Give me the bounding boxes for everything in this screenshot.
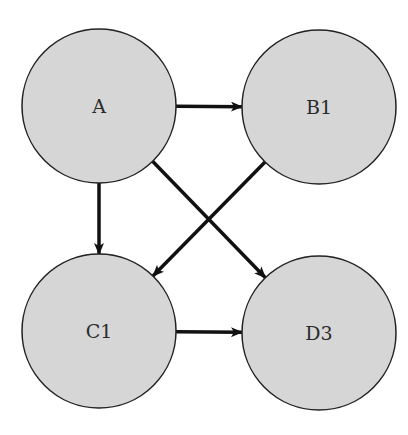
edge-c1-to-d3 [176,332,242,333]
node-d3: D3 [242,256,396,410]
node-label: D3 [305,322,332,344]
node-c1: C1 [22,254,176,408]
node-label: B1 [306,96,332,118]
node-label: A [91,95,106,117]
node-a: A [22,29,176,183]
node-b1: B1 [242,30,396,184]
graph-diagram: AB1C1D3 [0,0,408,435]
node-label: C1 [86,320,113,342]
